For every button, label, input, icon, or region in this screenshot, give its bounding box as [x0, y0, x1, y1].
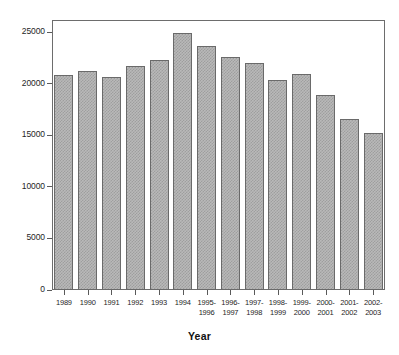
bar — [197, 46, 216, 290]
y-tick-label: 0 — [40, 284, 45, 295]
x-tick-label: 1998- 1999 — [266, 298, 290, 318]
bar — [268, 80, 287, 290]
x-tick-mark — [349, 290, 350, 295]
x-tick-mark — [64, 290, 65, 295]
x-tick-label: 2000- 2001 — [314, 298, 338, 318]
y-tick-label: 10000 — [22, 181, 45, 192]
x-axis-title: Year — [0, 330, 399, 342]
x-tick-label: 1990 — [76, 298, 100, 308]
bar — [221, 57, 240, 290]
bar — [150, 60, 169, 290]
x-tick-label: 1989 — [52, 298, 76, 308]
x-tick-mark — [278, 290, 279, 295]
bar — [292, 74, 311, 290]
x-tick-label: 1993 — [147, 298, 171, 308]
x-axis-tick-labels: 1989199019911992199319941995- 19961996- … — [52, 298, 385, 326]
bar — [340, 119, 359, 290]
y-axis: 0500010000150002000025000 — [0, 20, 52, 291]
x-tick-label: 2002- 2003 — [361, 298, 385, 318]
x-tick-label: 1991 — [100, 298, 124, 308]
x-tick-mark — [254, 290, 255, 295]
x-tick-mark — [88, 290, 89, 295]
x-tick-label: 1995- 1996 — [195, 298, 219, 318]
x-tick-mark — [302, 290, 303, 295]
x-tick-label: 1994 — [171, 298, 195, 308]
bar — [245, 63, 264, 290]
x-tick-mark — [207, 290, 208, 295]
x-tick-mark — [373, 290, 374, 295]
bar — [102, 77, 121, 290]
x-tick-mark — [230, 290, 231, 295]
bar — [54, 75, 73, 290]
y-tick-label: 25000 — [22, 26, 45, 37]
bar — [364, 133, 383, 290]
bar-chart: 0500010000150002000025000 19891990199119… — [0, 0, 399, 355]
bars-container — [52, 20, 385, 290]
x-tick-mark — [111, 290, 112, 295]
bar — [126, 66, 145, 290]
x-tick-mark — [135, 290, 136, 295]
y-tick-label: 15000 — [22, 129, 45, 140]
y-tick-label: 5000 — [26, 232, 45, 243]
x-tick-label: 1999- 2000 — [290, 298, 314, 318]
bar — [316, 95, 335, 290]
x-tick-mark — [183, 290, 184, 295]
x-tick-label: 1992 — [123, 298, 147, 308]
x-axis-tick-marks — [52, 290, 385, 298]
x-tick-label: 1996- 1997 — [219, 298, 243, 318]
x-tick-label: 2001- 2002 — [337, 298, 361, 318]
y-tick-label: 20000 — [22, 78, 45, 89]
x-tick-label: 1997- 1998 — [242, 298, 266, 318]
bar — [173, 33, 192, 290]
x-tick-mark — [326, 290, 327, 295]
x-tick-mark — [159, 290, 160, 295]
bar — [78, 71, 97, 290]
